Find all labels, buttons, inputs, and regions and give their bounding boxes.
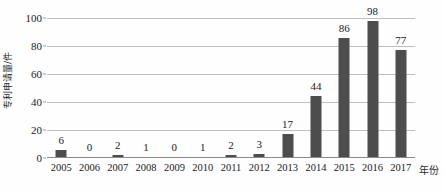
bar-value-label: 0 [87, 142, 93, 153]
y-tick-label: 40 [31, 96, 42, 108]
bar-value-label: 86 [339, 23, 350, 34]
bar [395, 50, 406, 158]
bar-slot: 6 [47, 18, 75, 158]
bar [282, 134, 293, 158]
bar-slot: 2 [104, 18, 132, 158]
patent-application-bar-chart: 专利申请量/件 020406080100 602101231744869877 … [0, 0, 444, 192]
x-tick-label: 2017 [390, 162, 411, 173]
bar-slot: 86 [330, 18, 358, 158]
x-tick-label: 2006 [79, 162, 100, 173]
bar-value-label: 1 [200, 142, 206, 153]
x-tick-label: 2013 [277, 162, 298, 173]
y-tick-label: 20 [31, 124, 42, 136]
bar-value-label: 1 [143, 142, 149, 153]
y-tick-label: 60 [31, 68, 42, 80]
bar-value-label: 3 [257, 139, 263, 150]
bar-slot: 1 [189, 18, 217, 158]
bar [339, 38, 350, 158]
bar-value-label: 0 [172, 142, 178, 153]
bar-value-label: 77 [395, 35, 406, 46]
x-tick-label: 2012 [249, 162, 270, 173]
x-tick-label: 2010 [192, 162, 213, 173]
bar [310, 96, 321, 158]
y-tick-label: 0 [37, 152, 43, 164]
y-tick-mark [43, 18, 46, 19]
y-tick-mark [43, 102, 46, 103]
y-tick-label: 80 [31, 40, 42, 52]
bar-value-label: 2 [115, 140, 121, 151]
x-tick-label: 2009 [164, 162, 185, 173]
bar-series: 602101231744869877 [47, 18, 415, 158]
y-tick-mark [43, 130, 46, 131]
y-axis-tick-labels: 020406080100 [16, 0, 46, 192]
bar-value-label: 2 [228, 140, 234, 151]
bar-slot: 3 [245, 18, 273, 158]
bar-value-label: 17 [282, 119, 293, 130]
y-tick-mark [43, 158, 46, 159]
x-tick-label: 2016 [362, 162, 383, 173]
y-axis-title-text: 专利申请量/件 [2, 51, 15, 108]
x-tick-label: 2007 [107, 162, 128, 173]
x-tick-label: 2005 [51, 162, 72, 173]
x-tick-label: 2014 [305, 162, 326, 173]
bar-slot: 1 [132, 18, 160, 158]
bar-value-label: 6 [58, 135, 64, 146]
bar-slot: 77 [387, 18, 415, 158]
x-axis-line [47, 157, 415, 158]
y-tick-mark [43, 46, 46, 47]
bar-slot: 44 [302, 18, 330, 158]
plot-area: 602101231744869877 [47, 18, 415, 158]
bar [367, 21, 378, 158]
x-axis-tick-labels: 2005200620072008200920102011201220132014… [47, 162, 415, 182]
y-axis-title: 专利申请量/件 [0, 0, 16, 160]
bar-slot: 0 [160, 18, 188, 158]
bar-value-label: 44 [310, 81, 321, 92]
bar-slot: 2 [217, 18, 245, 158]
bar-value-label: 98 [367, 6, 378, 17]
bar-slot: 98 [358, 18, 386, 158]
bar-slot: 17 [273, 18, 301, 158]
x-axis-title: 年份 [419, 162, 439, 177]
y-tick-mark [43, 74, 46, 75]
x-tick-label: 2008 [136, 162, 157, 173]
y-tick-label: 100 [26, 12, 43, 24]
bar-slot: 0 [75, 18, 103, 158]
x-tick-label: 2011 [221, 162, 242, 173]
x-tick-label: 2015 [334, 162, 355, 173]
